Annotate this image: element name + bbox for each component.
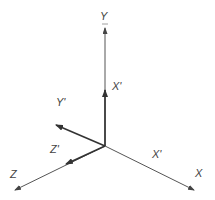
coordinate-axes-diagram: Y Z X X' Y' Z' X'	[0, 0, 215, 200]
z-axis-label: Z	[9, 168, 18, 180]
y-prime-vector	[56, 125, 105, 146]
y-axis-label: Y	[100, 10, 108, 22]
x-prime-axis-label: X'	[151, 148, 162, 160]
y-prime-label: Y'	[56, 96, 66, 108]
x-axis-line	[105, 146, 194, 190]
x-prime-label: X'	[111, 80, 122, 92]
x-axis-label: X	[194, 167, 203, 179]
z-prime-vector	[66, 146, 105, 164]
z-prime-label: Z'	[49, 143, 60, 155]
